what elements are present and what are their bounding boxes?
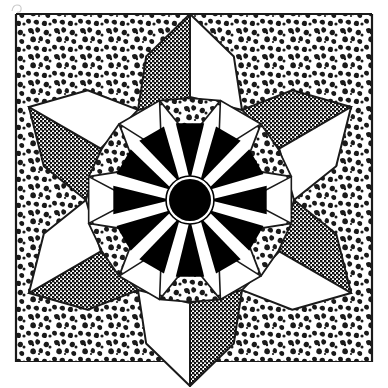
star-point-halftone-half bbox=[190, 290, 242, 386]
central-black-disc bbox=[169, 179, 211, 221]
sunburst-ray bbox=[113, 186, 167, 214]
sunburst-ray bbox=[213, 186, 267, 214]
sunburst-ray bbox=[176, 223, 204, 277]
artwork-canvas bbox=[0, 0, 388, 388]
sunburst-ray bbox=[176, 123, 204, 177]
star-rosette-illustration bbox=[0, 0, 388, 388]
scan-artifact-glyph bbox=[12, 5, 21, 12]
star-point-white-half bbox=[138, 290, 190, 386]
